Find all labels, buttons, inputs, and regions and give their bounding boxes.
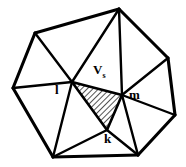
edge-upperleft-l (35, 33, 72, 82)
vertex-label-v-base: V (93, 62, 102, 77)
edge-bottom-m (122, 95, 138, 155)
vertex-label-m: m (129, 88, 140, 101)
edge-lowerright-bottom (138, 115, 175, 155)
edge-bottom-lowerleft (53, 155, 138, 157)
vertex-label-v: Vs (93, 63, 106, 80)
interior-edges-m (119, 9, 175, 155)
edge-top-m (119, 9, 122, 95)
edge-left-l (13, 82, 72, 88)
edge-right-lowerright (168, 58, 175, 115)
edge-left-upperleft (13, 33, 35, 88)
mesh-diagram-svg (0, 0, 186, 167)
hatched-triangle-l-m-k (72, 82, 122, 130)
edge-lowerleft-left (13, 88, 53, 157)
edge-top-right (119, 9, 168, 58)
vertex-label-l: l (55, 83, 59, 96)
triangulation-figure: l m k Vs (0, 0, 186, 167)
edge-lowerleft-k (53, 130, 107, 157)
interior-edges-k (53, 130, 138, 157)
vertex-label-k: k (104, 132, 111, 145)
polygon-boundary (13, 9, 175, 157)
vertex-label-v-subscript: s (102, 71, 105, 80)
